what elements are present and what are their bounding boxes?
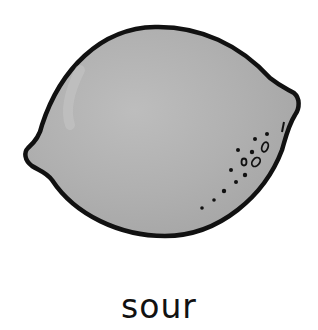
caption-word: sour bbox=[0, 287, 318, 327]
lemon-illustration bbox=[0, 0, 318, 260]
lemon-icon bbox=[0, 0, 318, 260]
